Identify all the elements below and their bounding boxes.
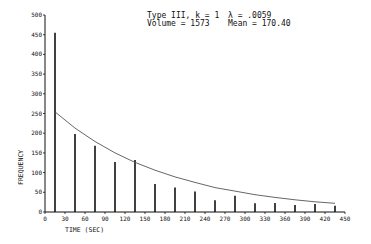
y-tick-label: 450 (31, 31, 42, 38)
y-tick-label: 0 (38, 208, 42, 215)
annotation-mean: Mean = 170.40 (228, 19, 291, 28)
x-tick-label: 300 (240, 215, 251, 222)
y-tick-label: 250 (31, 110, 42, 117)
frequency-chart: 0501001502002503003504004505000306090120… (0, 0, 371, 244)
y-axis-title: FREQUENCY (17, 150, 25, 185)
x-tick-label: 390 (300, 215, 311, 222)
x-tick-label: 330 (260, 215, 271, 222)
x-tick-label: 30 (61, 215, 69, 222)
fitted-curve (55, 112, 335, 203)
x-tick-label: 360 (280, 215, 291, 222)
y-tick-label: 350 (31, 70, 42, 77)
y-tick-label: 200 (31, 129, 42, 136)
y-tick-label: 500 (31, 11, 42, 18)
y-tick-label: 50 (35, 188, 43, 195)
axes: 0501001502002503003504004505000306090120… (31, 11, 351, 222)
x-tick-label: 0 (43, 215, 47, 222)
y-tick-label: 100 (31, 169, 42, 176)
x-tick-label: 450 (340, 215, 351, 222)
x-tick-label: 420 (320, 215, 331, 222)
x-tick-label: 90 (101, 215, 109, 222)
y-tick-label: 150 (31, 149, 42, 156)
x-tick-label: 270 (220, 215, 231, 222)
annotation-volume: Volume = 1573 (147, 19, 210, 28)
y-tick-label: 400 (31, 50, 42, 57)
x-axis-title: TIME (SEC) (65, 226, 104, 234)
x-tick-label: 60 (81, 215, 89, 222)
x-tick-label: 210 (180, 215, 191, 222)
x-tick-label: 180 (160, 215, 171, 222)
y-tick-label: 300 (31, 90, 42, 97)
x-tick-label: 150 (140, 215, 151, 222)
x-tick-label: 120 (120, 215, 131, 222)
frequency-bars (55, 33, 335, 212)
x-tick-label: 240 (200, 215, 211, 222)
